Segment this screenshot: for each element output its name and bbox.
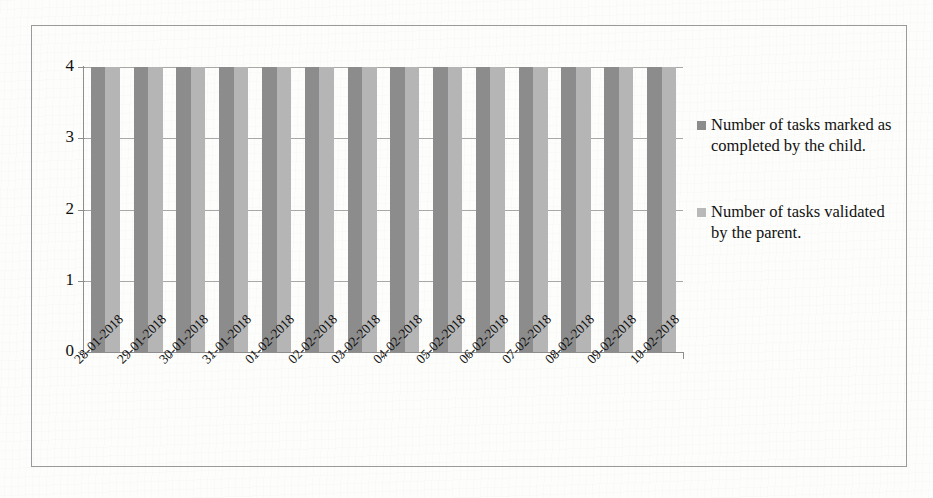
bar (405, 67, 420, 352)
bar-group (512, 67, 555, 352)
bar (576, 67, 591, 352)
y-tick-mark (78, 210, 85, 211)
plot-area (84, 67, 683, 352)
bar (519, 67, 534, 352)
x-tick-mark (683, 353, 684, 359)
bar (533, 67, 548, 352)
bar (191, 67, 206, 352)
bar-group (383, 67, 426, 352)
bar (448, 67, 463, 352)
bar (134, 67, 149, 352)
x-tick-mark (127, 353, 128, 359)
y-tick-label: 1 (40, 270, 74, 290)
y-tick-label: 3 (40, 127, 74, 147)
y-tick-mark (78, 67, 85, 68)
x-tick-mark (512, 353, 513, 359)
y-axis-tick-labels: 01234 (34, 67, 74, 352)
bar (234, 67, 249, 352)
bar (319, 67, 334, 352)
bar-series-group (84, 67, 683, 352)
legend-swatch-icon (697, 121, 706, 130)
y-tick-label: 0 (40, 341, 74, 361)
bar-group (555, 67, 598, 352)
bar-group (298, 67, 341, 352)
legend-label: Number of tasks validated by the parent. (711, 202, 897, 243)
bar (348, 67, 363, 352)
bar-group (640, 67, 683, 352)
y-tick-label: 2 (40, 199, 74, 219)
x-tick-mark (597, 353, 598, 359)
bar (490, 67, 505, 352)
bar (219, 67, 234, 352)
legend-entry: Number of tasks marked as completed by t… (697, 115, 897, 156)
bar-group (426, 67, 469, 352)
bar-group (84, 67, 127, 352)
y-tick-mark (78, 138, 85, 139)
bar-group (469, 67, 512, 352)
x-axis-tick-labels: 28-01-201829-01-201830-01-201831-01-2018… (84, 356, 683, 456)
y-tick-label: 4 (40, 56, 74, 76)
bar (662, 67, 677, 352)
bar (390, 67, 405, 352)
x-tick-mark (84, 353, 85, 359)
legend-label: Number of tasks marked as completed by t… (711, 115, 897, 156)
bar (105, 67, 120, 352)
bar (362, 67, 377, 352)
x-tick-mark (555, 353, 556, 359)
legend-swatch-icon (697, 208, 706, 217)
x-tick-mark (170, 353, 171, 359)
x-tick-mark (341, 353, 342, 359)
x-tick-mark (469, 353, 470, 359)
y-tick-mark (78, 281, 85, 282)
bar (647, 67, 662, 352)
bar (619, 67, 634, 352)
bar (433, 67, 448, 352)
bar (476, 67, 491, 352)
bar (176, 67, 191, 352)
bar (148, 67, 163, 352)
chart-legend: Number of tasks marked as completed by t… (697, 115, 897, 289)
x-tick-mark (298, 353, 299, 359)
x-tick-mark (640, 353, 641, 359)
legend-entry: Number of tasks validated by the parent. (697, 202, 897, 243)
bar-group (597, 67, 640, 352)
bar (561, 67, 576, 352)
bar-group (341, 67, 384, 352)
x-tick-mark (255, 353, 256, 359)
bar (277, 67, 292, 352)
bar (262, 67, 277, 352)
x-tick-mark (384, 353, 385, 359)
bar-group (170, 67, 213, 352)
x-tick-mark (212, 353, 213, 359)
bar-group (212, 67, 255, 352)
bar (91, 67, 106, 352)
bar (604, 67, 619, 352)
bar-group (127, 67, 170, 352)
bar-group (255, 67, 298, 352)
x-tick-mark (426, 353, 427, 359)
bar (305, 67, 320, 352)
